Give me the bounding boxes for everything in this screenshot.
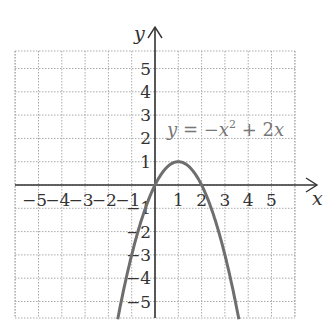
- x-tick-label: 5: [266, 190, 277, 210]
- x-tick-label: −2: [92, 190, 117, 210]
- x-tick-label: −5: [22, 190, 47, 210]
- equation-label: y = −x2 + 2x: [166, 118, 284, 140]
- y-axis-label: y: [133, 22, 145, 44]
- x-tick-label: 4: [243, 190, 254, 210]
- x-tick-label: −3: [69, 190, 94, 210]
- y-tick-label: −4: [126, 268, 151, 288]
- chart: −5−4−3−2−11234554321−1−2−3−4−5 x y y = −…: [0, 0, 336, 336]
- plot-area: −5−4−3−2−11234554321−1−2−3−4−5 x y y = −…: [0, 0, 336, 336]
- y-tick-label: −5: [126, 292, 151, 312]
- x-tick-label: 1: [173, 190, 184, 210]
- y-tick-label: 5: [140, 59, 151, 79]
- y-tick-label: 2: [140, 128, 151, 148]
- y-tick-label: 3: [140, 105, 151, 125]
- x-axis-label: x: [312, 187, 323, 209]
- x-tick-label: −4: [45, 190, 70, 210]
- y-tick-label: 1: [140, 152, 151, 172]
- y-tick-label: 4: [140, 82, 151, 102]
- x-tick-label: 3: [219, 190, 230, 210]
